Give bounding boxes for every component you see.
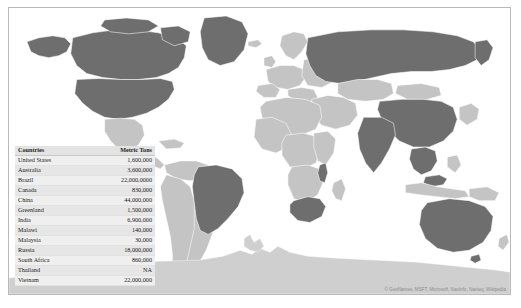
cell-country: China [15,195,86,205]
country-australia[interactable] [419,199,493,253]
countries-metric-tons-table: Countries Metric Tons United States1,600… [15,146,155,286]
column-header-metric-tons[interactable]: Metric Tons [86,146,155,155]
cell-metric-tons: 44,000,000 [86,195,155,205]
table-row[interactable]: Australia3,600,000 [15,165,155,175]
region-caribbean[interactable] [158,139,184,149]
country-philippines[interactable] [447,155,461,173]
table-header: Countries Metric Tons [15,146,155,155]
cell-country: India [15,215,86,225]
country-united-states-alaska[interactable] [27,36,71,58]
cell-metric-tons: 22,000,000 [86,275,155,285]
table-row[interactable]: South Africa860,000 [15,255,155,265]
cell-metric-tons: 140,000 [86,225,155,235]
cell-country: Greenland [15,205,86,215]
cell-country: South Africa [15,255,86,265]
country-malawi[interactable] [318,163,328,183]
country-greenland[interactable] [200,16,248,66]
region-korea-japan[interactable] [459,103,479,125]
table-row[interactable]: Malaysia30,000 [15,235,155,245]
map-attribution: © GeoNames, MSFT, Microsoft, NavInfo, Na… [384,287,506,292]
cell-country: Australia [15,165,86,175]
country-mongolia[interactable] [395,83,441,99]
table-row[interactable]: ThailandNA [15,265,155,275]
table-row[interactable]: India6,900,000 [15,215,155,225]
cell-country: Russia [15,245,86,255]
table-row[interactable]: United States1,600,000 [15,155,155,165]
cell-metric-tons: 22,000,0000 [86,175,155,185]
table-header-row: Countries Metric Tons [15,146,155,155]
country-india[interactable] [358,117,396,173]
cell-metric-tons: 3,600,000 [86,165,155,175]
country-new-zealand[interactable] [498,234,509,250]
cell-country: Canada [15,185,86,195]
cell-country: Malaysia [15,235,86,245]
table-row[interactable]: Russia18,000,000 [15,245,155,255]
region-central-asia[interactable] [338,80,394,102]
cell-metric-tons: NA [86,265,155,275]
island-tasmania[interactable] [470,254,481,263]
cell-country: Brazil [15,175,86,185]
cell-metric-tons: 6,900,000 [86,215,155,225]
country-south-africa[interactable] [290,197,326,223]
cell-metric-tons: 30,000 [86,235,155,245]
column-header-countries[interactable]: Countries [15,146,86,155]
cell-metric-tons: 18,000,000 [86,245,155,255]
country-russia-kamchatka[interactable] [475,40,493,66]
table-row[interactable]: Greenland1,500,000 [15,205,155,215]
cell-country: Malawi [15,225,86,235]
country-russia[interactable] [306,30,481,84]
country-brazil[interactable] [192,165,244,235]
data-table-visual[interactable]: Countries Metric Tons United States1,600… [15,146,155,286]
cell-metric-tons: 1,600,000 [86,155,155,165]
island-new-guinea[interactable] [469,187,499,201]
cell-metric-tons: 860,000 [86,255,155,265]
table-row[interactable]: Canada830,000 [15,185,155,195]
region-indochina[interactable] [409,147,437,175]
table-row[interactable]: Malawi140,000 [15,225,155,235]
report-frame: Countries Metric Tons United States1,600… [8,7,511,295]
region-scandinavia[interactable] [280,32,308,60]
table-row[interactable]: Brazil22,000,0000 [15,175,155,185]
cell-metric-tons: 830,000 [86,185,155,195]
cell-country: United States [15,155,86,165]
cell-country: Thailand [15,265,86,275]
cell-country: Vietnam [15,275,86,285]
country-united-states[interactable] [75,79,175,120]
cell-metric-tons: 1,500,000 [86,205,155,215]
table-row[interactable]: China44,000,000 [15,195,155,205]
table-row[interactable]: Vietnam22,000,000 [15,275,155,285]
island-madagascar[interactable] [332,179,346,201]
country-united-kingdom[interactable] [264,56,276,68]
country-iceland[interactable] [248,40,262,48]
table-body: United States1,600,000Australia3,600,000… [15,155,155,285]
